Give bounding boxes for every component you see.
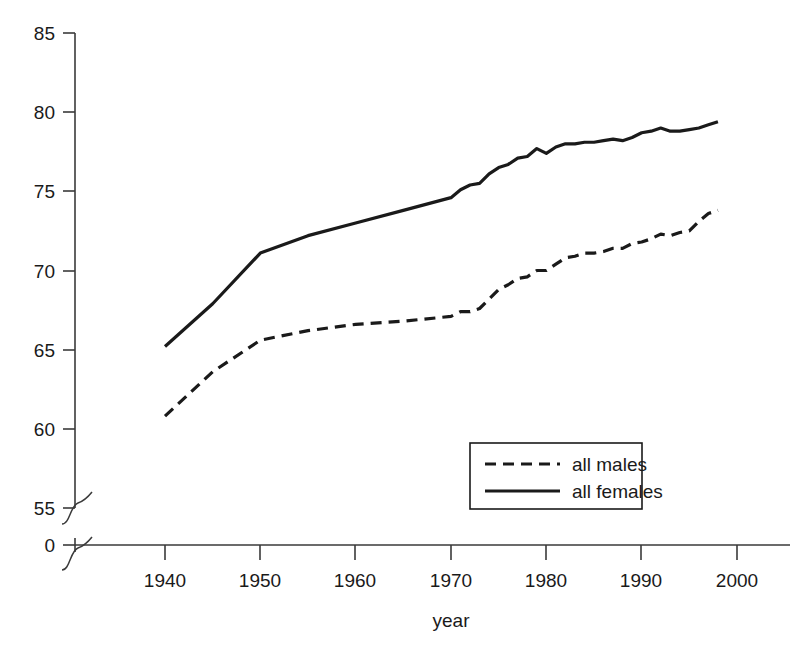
legend-label-all-males: all males	[572, 454, 647, 475]
x-tick-label: 1940	[144, 570, 186, 591]
y-tick-labels: 85 80 75 70 65 60 55 0	[34, 23, 55, 556]
y-tick-label: 85	[34, 23, 55, 44]
x-tick-label: 1960	[334, 570, 376, 591]
series-line-all-females	[165, 122, 718, 347]
x-tick-labels: 1940 1950 1960 1970 1980 1990 2000	[144, 570, 758, 591]
axis-break-squiggle-lower	[62, 537, 92, 570]
x-axis-title: year	[433, 610, 471, 631]
y-tick-label: 80	[34, 102, 55, 123]
y-tick-label: 70	[34, 261, 55, 282]
y-tick-label: 60	[34, 419, 55, 440]
y-tick-label: 0	[44, 535, 55, 556]
x-tick-label: 2000	[716, 570, 758, 591]
y-tick-marks	[63, 33, 75, 545]
x-tick-label: 1970	[430, 570, 472, 591]
legend-label-all-females: all females	[572, 481, 663, 502]
legend: all males all females	[470, 443, 663, 509]
y-tick-label: 65	[34, 340, 55, 361]
y-tick-label: 75	[34, 181, 55, 202]
series-line-all-males	[165, 210, 718, 416]
x-tick-label: 1980	[525, 570, 567, 591]
line-chart: 85 80 75 70 65 60 55 0 1940 1950 1960 19…	[0, 0, 796, 645]
y-tick-label: 55	[34, 498, 55, 519]
chart-canvas: 85 80 75 70 65 60 55 0 1940 1950 1960 19…	[0, 0, 796, 645]
x-tick-marks	[165, 545, 737, 560]
x-tick-label: 1950	[239, 570, 281, 591]
x-tick-label: 1990	[620, 570, 662, 591]
